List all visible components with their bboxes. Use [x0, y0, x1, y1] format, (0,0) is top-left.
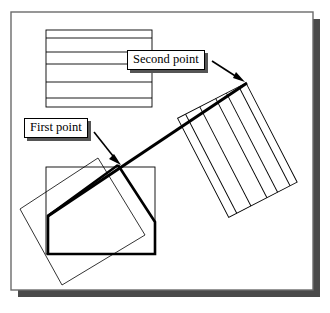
callout-first-point-label: First point: [30, 120, 82, 134]
callout-second-point[interactable]: Second point: [127, 50, 205, 70]
callout-second-point-label: Second point: [133, 52, 199, 66]
diagram-svg: [0, 0, 330, 313]
diagram-canvas: Second point First point: [0, 0, 330, 313]
callout-first-point[interactable]: First point: [24, 118, 88, 138]
